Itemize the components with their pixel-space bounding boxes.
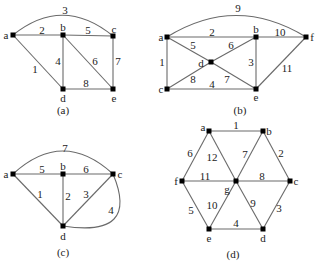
node-label: d (260, 232, 266, 244)
edge-weight-label: 1 (233, 119, 239, 131)
edge-weight-label: 8 (259, 170, 265, 182)
edge-weight-label: 3 (62, 4, 68, 16)
edge-weight-label: 3 (83, 188, 89, 200)
edge-weight-label: 12 (207, 151, 218, 163)
node-b-f (304, 35, 309, 40)
edge-weight-label: 10 (207, 199, 219, 211)
edge-weight-label: 6 (92, 55, 98, 67)
edge-weight-label: 8 (190, 73, 196, 85)
node-b-c (165, 87, 170, 92)
edge-d-f-e (182, 181, 209, 229)
edge-weight-label: 9 (235, 2, 241, 14)
node-label: g (224, 183, 230, 195)
edge-weight-label: 7 (62, 142, 68, 154)
node-label: c (118, 168, 123, 180)
labels-layer: 32514678abcde(a)9210156874311abfdce(b)75… (4, 2, 315, 261)
edge-weight-label: 6 (228, 39, 234, 51)
node-label: a (201, 121, 206, 133)
node-label: b (266, 125, 272, 137)
edge-weight-label: 8 (83, 77, 89, 89)
node-d-g (234, 179, 239, 184)
node-a-e (111, 87, 116, 92)
node-c-c (111, 172, 116, 177)
edge-weight-label: 1 (159, 56, 165, 68)
node-b-a (165, 35, 170, 40)
edge-weight-label: 3 (248, 56, 254, 68)
edge-weight-label: 5 (39, 163, 45, 175)
edge-weight-label: 4 (209, 78, 215, 90)
node-label: f (310, 31, 314, 43)
graph-caption-a: (a) (57, 104, 70, 117)
node-label: b (253, 23, 259, 35)
edge-weight-label: 1 (32, 63, 38, 75)
node-label: d (60, 92, 66, 104)
node-d-b (261, 129, 266, 134)
node-b-d (209, 60, 214, 65)
edge-weight-label: 9 (250, 197, 256, 209)
edge-weight-label: 2 (209, 26, 215, 38)
node-c-d (61, 224, 66, 229)
edge-weight-label: 3 (276, 202, 282, 214)
edge-weight-label: 6 (83, 163, 89, 175)
node-label: f (174, 175, 178, 187)
node-label: c (294, 175, 299, 187)
graph-caption-b: (b) (234, 104, 247, 117)
edges-layer (13, 15, 306, 229)
edge-c-d-c (63, 174, 120, 228)
graph-caption-c: (c) (57, 246, 70, 259)
node-label: a (4, 168, 9, 180)
edge-weight-label: 7 (224, 73, 230, 85)
node-a-d (61, 87, 66, 92)
edge-weight-label: 2 (39, 24, 45, 36)
node-label: a (4, 29, 9, 41)
node-b-b (254, 35, 259, 40)
node-c-b (61, 172, 66, 177)
edge-weight-label: 4 (108, 204, 114, 216)
edge-weight-label: 2 (65, 190, 71, 202)
node-a-a (11, 33, 16, 38)
node-d-c (288, 179, 293, 184)
edge-weight-label: 10 (275, 26, 287, 38)
edge-weight-label: 11 (200, 170, 211, 182)
node-label: c (112, 23, 117, 35)
node-label: a (159, 31, 164, 43)
node-c-a (11, 172, 16, 177)
edge-b-a-d (167, 37, 211, 62)
node-label: b (60, 160, 66, 172)
edge-c-a-d (13, 174, 63, 226)
edge-weight-label: 5 (85, 24, 91, 36)
edge-weight-label: 7 (115, 55, 121, 67)
edge-weight-label: 1 (37, 188, 43, 200)
edge-weight-label: 7 (242, 148, 248, 160)
node-d-a (207, 129, 212, 134)
node-a-b (61, 33, 66, 38)
edge-d-b-c (263, 131, 290, 181)
edge-weight-label: 11 (282, 62, 293, 74)
edge-weight-label: 6 (187, 147, 193, 159)
node-d-e (207, 227, 212, 232)
edge-weight-label: 4 (233, 217, 239, 229)
node-label: d (198, 57, 204, 69)
node-label: b (60, 21, 66, 33)
edge-weight-label: 4 (55, 55, 61, 67)
edge-b-c-d (167, 62, 211, 89)
node-label: e (112, 92, 117, 104)
edge-weight-label: 5 (188, 204, 194, 216)
graph-figure: 32514678abcde(a)9210156874311abfdce(b)75… (0, 0, 317, 267)
graph-caption-d: (d) (227, 248, 240, 261)
edge-weight-label: 2 (278, 147, 284, 159)
node-d-f (180, 179, 185, 184)
node-label: d (60, 230, 66, 242)
node-label: c (159, 83, 164, 95)
node-label: e (254, 91, 259, 103)
edge-weight-label: 5 (190, 39, 196, 51)
node-d-d (261, 227, 266, 232)
node-label: e (207, 232, 212, 244)
